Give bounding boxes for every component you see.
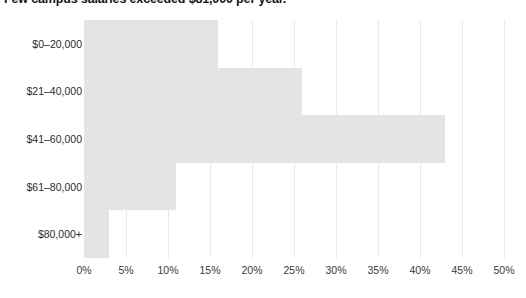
y-axis-label: $61–80,000 [0,181,82,193]
chart-figure: Few campus salaries exceeded $81,000 per… [0,0,526,298]
y-axis-label: $21–40,000 [0,85,82,97]
plot-area [84,20,504,258]
bar-band [84,68,504,116]
x-axis-tick-label: 35% [356,264,400,276]
y-axis-label: $80,000+ [0,228,82,240]
x-axis-tick-label: 20% [230,264,274,276]
x-axis-tick-label: 30% [314,264,358,276]
bar-band [84,163,504,211]
bar[interactable] [84,163,176,211]
bar[interactable] [84,115,445,163]
y-axis-label: $41–60,000 [0,133,82,145]
x-axis-tick-label: 25% [272,264,316,276]
x-axis-tick-label: 45% [440,264,484,276]
bar-band [84,210,504,258]
bar[interactable] [84,20,218,68]
x-axis-tick-label: 0% [62,264,106,276]
x-axis-tick-label: 40% [398,264,442,276]
x-axis-tick-label: 50% [482,264,526,276]
bar-band [84,20,504,68]
bar-band [84,115,504,163]
bar[interactable] [84,68,302,116]
gridline [504,20,505,258]
x-axis-tick-label: 5% [104,264,148,276]
chart-title: Few campus salaries exceeded $81,000 per… [4,0,522,6]
y-axis-label: $0–20,000 [0,38,82,50]
bar[interactable] [84,210,109,258]
x-axis-tick-label: 15% [188,264,232,276]
x-axis-tick-label: 10% [146,264,190,276]
